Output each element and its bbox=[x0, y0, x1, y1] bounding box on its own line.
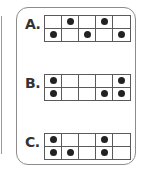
grid-cell bbox=[113, 16, 130, 29]
dot-icon bbox=[101, 90, 108, 97]
grid-cell bbox=[62, 147, 79, 160]
option-c-grid[interactable] bbox=[44, 133, 131, 160]
dot-icon bbox=[101, 136, 108, 143]
dot-icon bbox=[118, 77, 125, 84]
dot-icon bbox=[50, 149, 57, 156]
option-b-label: B. bbox=[25, 76, 40, 90]
grid-cell bbox=[62, 16, 79, 29]
grid-cell bbox=[62, 88, 79, 101]
grid-cell bbox=[113, 88, 130, 101]
option-a-grid[interactable] bbox=[44, 15, 131, 42]
grid-cell bbox=[45, 134, 62, 147]
grid-cell bbox=[45, 75, 62, 88]
grid-cell bbox=[113, 29, 130, 42]
grid-cell bbox=[96, 88, 113, 101]
left-divider-line bbox=[1, 16, 2, 154]
grid-cell bbox=[45, 88, 62, 101]
grid-cell bbox=[79, 75, 96, 88]
dot-icon bbox=[118, 90, 125, 97]
grid-cell bbox=[79, 29, 96, 42]
dot-icon bbox=[67, 18, 74, 25]
grid-cell bbox=[45, 29, 62, 42]
dot-icon bbox=[84, 31, 91, 38]
grid-cell bbox=[79, 88, 96, 101]
grid-cell bbox=[96, 16, 113, 29]
grid-cell bbox=[96, 29, 113, 42]
option-a-label: A. bbox=[25, 17, 40, 31]
grid-cell bbox=[96, 75, 113, 88]
grid-cell bbox=[45, 16, 62, 29]
grid-cell bbox=[79, 16, 96, 29]
grid-cell bbox=[45, 147, 62, 160]
grid-cell bbox=[96, 147, 113, 160]
dot-icon bbox=[101, 149, 108, 156]
option-b-grid[interactable] bbox=[44, 74, 131, 101]
grid-cell bbox=[79, 134, 96, 147]
dot-icon bbox=[50, 90, 57, 97]
grid-cell bbox=[113, 134, 130, 147]
dot-icon bbox=[101, 18, 108, 25]
grid-cell bbox=[96, 134, 113, 147]
grid-cell bbox=[62, 29, 79, 42]
dot-icon bbox=[50, 77, 57, 84]
dot-icon bbox=[67, 149, 74, 156]
dot-icon bbox=[118, 31, 125, 38]
dot-icon bbox=[50, 136, 57, 143]
dot-icon bbox=[50, 31, 57, 38]
grid-cell bbox=[62, 134, 79, 147]
grid-cell bbox=[113, 75, 130, 88]
option-c-label: C. bbox=[25, 135, 40, 149]
grid-cell bbox=[79, 147, 96, 160]
grid-cell bbox=[113, 147, 130, 160]
grid-cell bbox=[62, 75, 79, 88]
